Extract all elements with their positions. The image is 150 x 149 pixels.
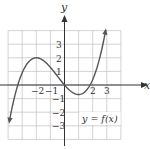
curve-right-arrow-icon (102, 29, 107, 35)
y-tick-label: −2 (52, 108, 65, 118)
x-tick-label: 2 (90, 86, 96, 96)
x-tick-label: 3 (104, 86, 110, 96)
x-axis-label: x (144, 79, 150, 92)
y-tick-label: 2 (56, 54, 62, 64)
function-label: y = f(x) (81, 113, 118, 124)
function-label-box: y = f(x) (80, 112, 121, 125)
function-graph: x y −2 −1 2 3 3 2 1 −1 −2 −3 y = f(x) (0, 0, 150, 149)
x-tick-label: −2 (31, 86, 44, 96)
y-tick-label: −3 (52, 121, 66, 131)
y-tick-label: 3 (56, 40, 62, 50)
y-axis-arrow-icon (62, 15, 68, 22)
y-tick-label: −1 (52, 94, 65, 104)
y-axis-label: y (60, 1, 68, 14)
